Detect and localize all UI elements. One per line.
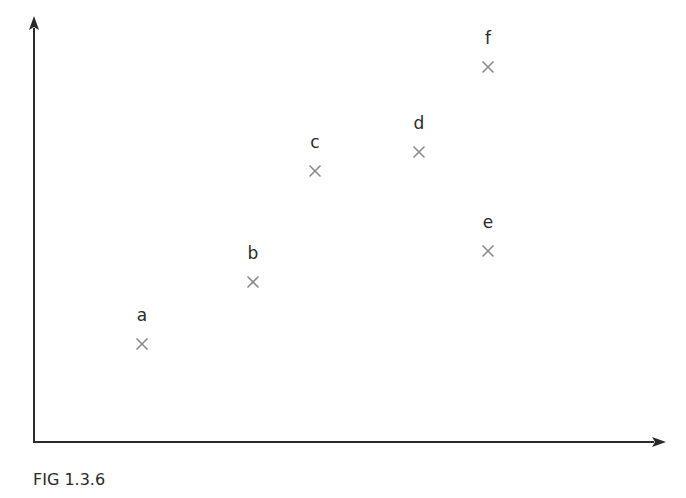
- point-label-f: f: [485, 30, 491, 47]
- cross-icon: [308, 164, 322, 178]
- point-marker-a: [135, 336, 149, 350]
- figure-caption: FIG 1.3.6: [33, 470, 105, 489]
- cross-icon: [412, 145, 426, 159]
- cross-icon: [246, 275, 260, 289]
- point-marker-b: [246, 274, 260, 288]
- point-label-b: b: [248, 245, 259, 262]
- x-axis-arrow-icon: [652, 437, 666, 447]
- point-marker-e: [481, 243, 495, 257]
- cross-icon: [481, 244, 495, 258]
- point-label-d: d: [414, 115, 425, 132]
- point-marker-f: [481, 59, 495, 73]
- scatter-plot: [0, 0, 686, 498]
- point-marker-c: [308, 163, 322, 177]
- point-marker-d: [412, 144, 426, 158]
- point-label-c: c: [310, 134, 319, 151]
- cross-icon: [135, 337, 149, 351]
- y-axis-arrow-icon: [29, 16, 39, 30]
- point-label-e: e: [483, 214, 493, 231]
- point-label-a: a: [137, 307, 147, 324]
- cross-icon: [481, 60, 495, 74]
